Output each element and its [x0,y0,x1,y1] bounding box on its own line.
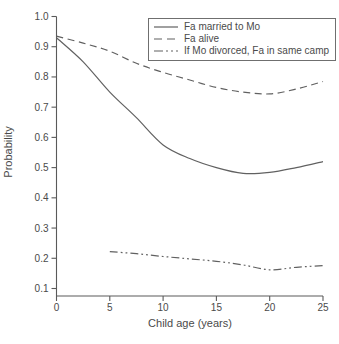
y-tick-label: 1.0 [35,11,49,22]
x-tick-label: 10 [158,302,170,313]
y-tick-label: 0.3 [35,223,49,234]
dashed-line-sample-icon [154,34,178,44]
y-tick-label: 0.6 [35,132,49,143]
legend-item-fa-married-to-mo: Fa married to Mo [154,21,331,33]
y-tick-label: 0.2 [35,253,49,264]
x-axis-title: Child age (years) [148,317,232,329]
legend-item-fa-alive: Fa alive [154,33,331,45]
x-tick-label: 0 [54,302,60,313]
x-tick-label: 5 [107,302,113,313]
series-line-if-mo-divorced-fa-in-same-camp [110,252,323,270]
legend-label: If Mo divorced, Fa in same camp [184,45,329,57]
series-group [57,36,324,270]
legend-item-if-mo-divorced: If Mo divorced, Fa in same camp [154,45,331,57]
legend-label: Fa alive [184,33,219,45]
x-tick-label: 15 [211,302,223,313]
y-axis-title: Probability [2,126,14,178]
solid-line-sample-icon [154,22,178,32]
x-tick-label: 20 [264,302,276,313]
y-tick-label: 0.1 [35,283,49,294]
figure-line-chart: 0.10.20.30.40.50.60.70.80.91.00510152025… [0,0,339,344]
dash-dot-dot-line-sample-icon [154,46,178,56]
legend-box: Fa married to Mo Fa alive If Mo divorced… [148,18,336,61]
y-tick-label: 0.9 [35,41,49,52]
y-tick-label: 0.7 [35,102,49,113]
x-tick-label: 25 [317,302,329,313]
y-tick-label: 0.5 [35,162,49,173]
y-tick-label: 0.4 [35,192,49,203]
legend-label: Fa married to Mo [184,21,260,33]
y-tick-label: 0.8 [35,71,49,82]
